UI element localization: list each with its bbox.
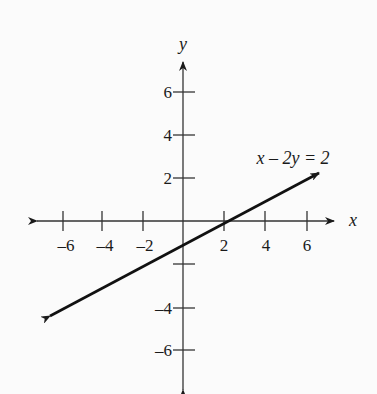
x-tick-label: –2 xyxy=(136,236,154,255)
x-tick-label: 2 xyxy=(220,236,229,255)
x-tick-label: 4 xyxy=(262,236,271,255)
x-tick-label: –6 xyxy=(57,236,75,255)
line-x-minus-2y-equals-2 xyxy=(50,173,319,316)
y-axis-label: y xyxy=(177,34,187,54)
x-axis-label: x xyxy=(348,210,357,230)
y-tick-label: –6 xyxy=(154,341,172,360)
x-tick-label: 6 xyxy=(303,236,312,255)
x-tick-label: –4 xyxy=(96,236,115,255)
y-tick-label: –4 xyxy=(154,299,173,318)
y-tick-label: 6 xyxy=(164,83,173,102)
coordinate-plane: –6 –4 –2 2 4 6 6 4 2 –4 –6 y x x – 2y = … xyxy=(0,0,377,394)
y-tick-label: 2 xyxy=(164,169,173,188)
equation-label: x – 2y = 2 xyxy=(255,148,329,168)
y-tick-label: 4 xyxy=(164,126,173,145)
